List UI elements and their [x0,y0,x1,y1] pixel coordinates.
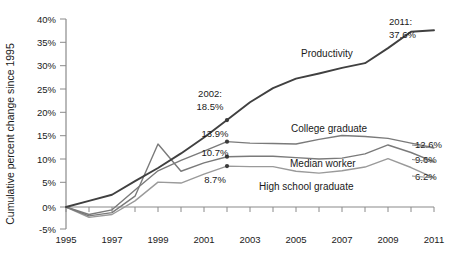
y-tick-label-25: 25% [37,84,57,95]
x-tick-label-1997: 1997 [101,234,122,245]
x-axis-tick-labels: 1995 1997 1999 2001 2003 2005 2007 2009 … [55,234,444,245]
annotation-college-2011: 12.6% [415,139,442,150]
series-line-productivity [66,30,434,207]
y-axis-title: Cumulative percent change since 1995 [4,43,16,225]
y-tick-label-10: 10% [37,154,57,165]
series-label-productivity: Productivity [301,48,353,59]
line-chart: Cumulative percent change since 1995 40%… [0,0,457,269]
data-point-markers [225,118,229,168]
x-tick-label-2005: 2005 [285,234,306,245]
series-line-college-graduate [66,136,434,215]
marker-college-2002 [225,140,229,144]
x-tick-label-2009: 2009 [377,234,398,245]
annotation-productivity-2011-value: 37.6% [389,29,416,40]
x-tick-label-1995: 1995 [55,234,76,245]
marker-highschool-2002 [225,164,229,168]
x-tick-label-2001: 2001 [193,234,214,245]
y-tick-label-30: 30% [37,60,57,71]
annotation-productivity-2011-year: 2011: [389,16,412,27]
marker-productivity-2002 [225,118,229,122]
y-tick-label-35: 35% [37,37,57,48]
y-axis-tick-labels: 40% 35% 30% 25% 20% 15% 10% 5% 0% -5% [37,14,57,235]
series-paths [66,30,434,217]
y-tick-label-40: 40% [37,14,57,25]
y-tick-label-5: 5% [42,177,56,188]
y-tick-label-20: 20% [37,107,57,118]
series-label-high-school-graduate: High school graduate [259,181,354,192]
annotation-highschool-2002: 8.7% [204,174,226,185]
y-axis-ticks [60,19,66,229]
series-line-median-worker [66,144,434,216]
x-tick-label-2011: 2011 [424,234,444,245]
x-tick-label-2003: 2003 [239,234,260,245]
x-tick-label-2007: 2007 [331,234,352,245]
annotation-productivity-2002-value: 18.5% [197,101,224,112]
y-tick-label-neg5: -5% [39,224,56,235]
annotation-college-2002: 13.9% [202,128,229,139]
annotation-median-2011: 9.6% [415,154,437,165]
annotation-productivity-2002-year: 2002: [198,88,222,99]
chart-container: Cumulative percent change since 1995 40%… [0,0,457,269]
series-label-college-graduate: College graduate [291,123,368,134]
x-tick-label-1999: 1999 [147,234,168,245]
y-tick-label-15: 15% [37,130,57,141]
y-tick-label-0: 0% [42,202,56,213]
annotation-median-2002: 10.7% [202,147,229,158]
series-label-median-worker: Median worker [290,158,356,169]
